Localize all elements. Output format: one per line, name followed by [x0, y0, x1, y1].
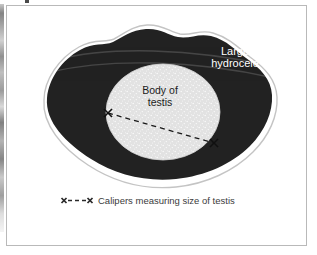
- label-body-of-testis: Body of testis: [118, 85, 202, 109]
- hydrocele-illustration: [0, 0, 317, 255]
- caliper-key-icon: [60, 195, 94, 206]
- testis-body: [106, 64, 220, 160]
- caption: Calipers measuring size of testis: [60, 195, 235, 206]
- caption-text: Calipers measuring size of testis: [98, 195, 235, 206]
- label-large-hydrocele: Large hydrocele: [193, 45, 277, 70]
